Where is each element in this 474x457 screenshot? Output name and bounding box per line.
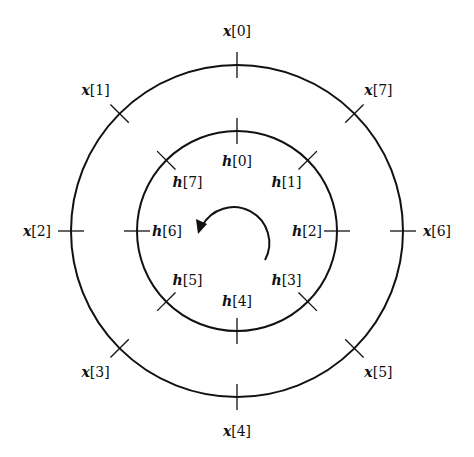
inner-label-h4: h[4]	[222, 293, 252, 309]
tick-marks	[58, 52, 416, 410]
inner-label-h2: h[2]	[292, 223, 322, 239]
outer-label-x6: x[6]	[422, 223, 451, 239]
inner-label-h3: h[3]	[271, 272, 301, 288]
inner-label-h6: h[6]	[152, 223, 182, 239]
outer-label-x0: x[0]	[222, 23, 251, 39]
outer-label-x4: x[4]	[222, 423, 251, 439]
outer-label-x5: x[5]	[363, 364, 392, 380]
inner-label-h0: h[0]	[222, 153, 252, 169]
outer-label-x3: x[3]	[80, 364, 109, 380]
outer-label-x2: x[2]	[22, 223, 51, 239]
outer-label-x7: x[7]	[363, 82, 392, 98]
circular-convolution-diagram: x[0]x[1]x[2]x[3]x[4]x[5]x[6]x[7]h[0]h[1]…	[0, 0, 474, 457]
labels: x[0]x[1]x[2]x[3]x[4]x[5]x[6]x[7]h[0]h[1]…	[22, 23, 451, 439]
inner-label-h5: h[5]	[172, 272, 202, 288]
inner-label-h1: h[1]	[271, 174, 301, 190]
outer-label-x1: x[1]	[80, 82, 109, 98]
rotation-arrow	[202, 207, 269, 260]
inner-label-h7: h[7]	[172, 174, 202, 190]
